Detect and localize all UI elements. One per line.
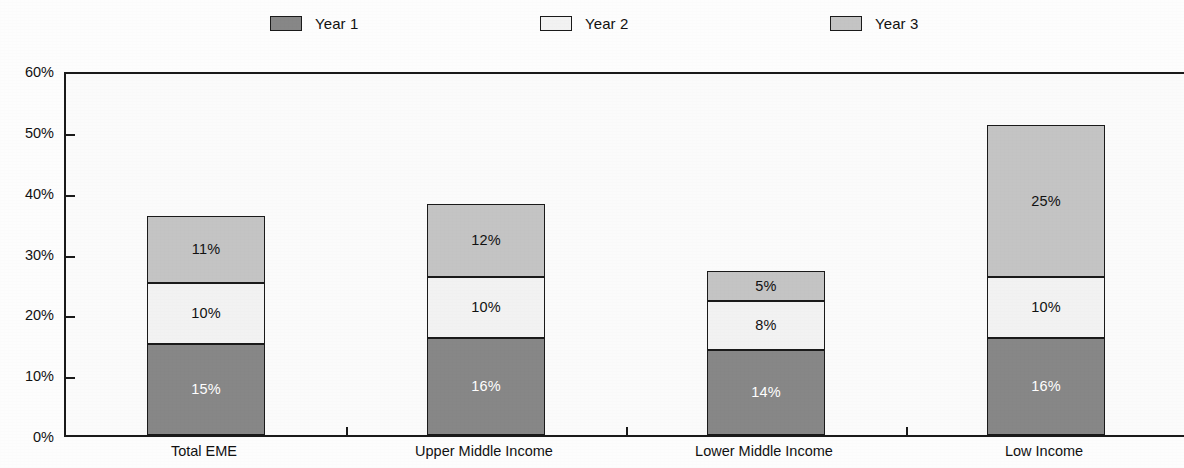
plot-area: 15%10%11%16%10%12%14%8%5%16%10%25% — [64, 72, 1184, 437]
bar-value-label: 25% — [1031, 194, 1061, 209]
legend-label: Year 3 — [875, 15, 918, 32]
bar-value-label: 12% — [471, 233, 501, 248]
legend-swatch-icon — [540, 16, 572, 31]
x-axis-category-label: Total EME — [64, 443, 344, 459]
bar-value-label: 5% — [755, 279, 776, 294]
bar-segment[interactable]: 15% — [147, 344, 265, 435]
bar-segment[interactable]: 16% — [427, 338, 545, 435]
legend-label: Year 2 — [585, 15, 628, 32]
chart-legend: Year 1Year 2Year 3 — [0, 0, 1184, 46]
y-axis-tick — [66, 134, 75, 136]
x-axis-category-label: Low Income — [904, 443, 1184, 459]
legend-item-year-2: Year 2 — [540, 12, 628, 34]
legend-swatch-icon — [830, 16, 862, 31]
bar-segment[interactable]: 14% — [707, 350, 825, 435]
bar-segment[interactable]: 8% — [707, 301, 825, 350]
x-axis-labels: Total EMEUpper Middle IncomeLower Middle… — [64, 441, 1184, 468]
bar-segment[interactable]: 12% — [427, 204, 545, 277]
y-axis-tick — [66, 316, 75, 318]
bar-value-label: 16% — [1031, 379, 1061, 394]
bar-segment[interactable]: 10% — [147, 283, 265, 344]
bar-value-label: 10% — [191, 306, 221, 321]
bar-segment[interactable]: 16% — [987, 338, 1105, 435]
x-axis-tick — [906, 427, 908, 435]
bar-segment[interactable]: 25% — [987, 125, 1105, 277]
bar-value-label: 16% — [471, 379, 501, 394]
x-axis-tick — [346, 427, 348, 435]
y-axis-tick-label: 60% — [0, 64, 54, 80]
bar-value-label: 10% — [1031, 300, 1061, 315]
legend-item-year-1: Year 1 — [270, 12, 358, 34]
bar-value-label: 15% — [191, 382, 221, 397]
x-axis-tick — [626, 427, 628, 435]
legend-item-year-3: Year 3 — [830, 12, 918, 34]
plot-inner: 15%10%11%16%10%12%14%8%5%16%10%25% — [66, 74, 1184, 435]
y-axis-tick-label: 10% — [0, 368, 54, 384]
bar-value-label: 11% — [192, 242, 221, 257]
y-axis-tick-label: 50% — [0, 125, 54, 141]
y-axis-tick — [66, 195, 75, 197]
y-axis-tick-label: 40% — [0, 186, 54, 202]
y-axis-tick-label: 0% — [0, 429, 54, 445]
bar-segment[interactable]: 11% — [147, 216, 265, 283]
bar-segment[interactable]: 10% — [427, 277, 545, 338]
bar-segment[interactable]: 5% — [707, 271, 825, 301]
bar-segment[interactable]: 10% — [987, 277, 1105, 338]
bar-value-label: 14% — [751, 385, 781, 400]
y-axis-tick — [66, 256, 75, 258]
legend-swatch-icon — [270, 16, 302, 31]
bar-value-label: 8% — [755, 318, 776, 333]
chart-page: Year 1Year 2Year 3 0%10%20%30%40%50%60% … — [0, 0, 1184, 468]
y-axis-tick-label: 20% — [0, 307, 54, 323]
x-axis-category-label: Upper Middle Income — [344, 443, 624, 459]
bar-value-label: 10% — [471, 300, 501, 315]
legend-label: Year 1 — [315, 15, 358, 32]
x-axis-category-label: Lower Middle Income — [624, 443, 904, 459]
y-axis-tick — [66, 377, 75, 379]
y-axis-tick-label: 30% — [0, 247, 54, 263]
